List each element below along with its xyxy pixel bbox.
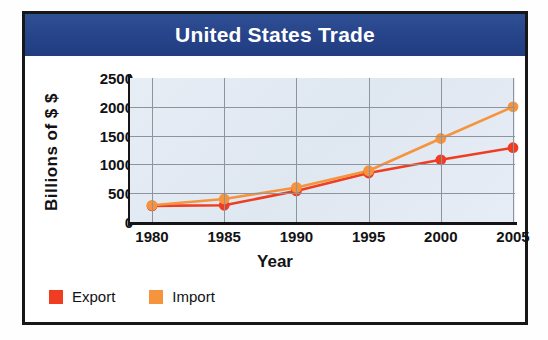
gridline-vertical <box>296 78 297 222</box>
gridline-vertical <box>369 78 370 222</box>
x-axis-tick: 2000 <box>424 228 457 245</box>
gridline-horizontal <box>130 193 515 194</box>
legend-label: Import <box>172 288 215 305</box>
x-axis-tick: 1980 <box>135 228 168 245</box>
legend-item-export[interactable]: Export <box>49 288 115 305</box>
y-axis-tick-labels: 25002000150010005000 <box>73 78 133 222</box>
legend-swatch-icon <box>149 290 163 304</box>
x-axis-tick: 1995 <box>352 228 385 245</box>
plot-area <box>130 78 515 222</box>
chart-title-bar: United States Trade <box>25 14 525 56</box>
gridline-vertical <box>441 78 442 222</box>
gridline-vertical <box>152 78 153 222</box>
legend-item-import[interactable]: Import <box>149 288 215 305</box>
gridline-horizontal <box>130 107 515 108</box>
chart-region: Billions of $ $ 25002000150010005000 198… <box>25 56 525 328</box>
x-axis-line <box>128 222 517 225</box>
chart-legend: ExportImport <box>49 288 215 305</box>
x-axis-tick: 2005 <box>496 228 529 245</box>
screenshot-root: United States Trade Billions of $ $ 2500… <box>0 0 548 340</box>
x-axis-tick: 1990 <box>280 228 313 245</box>
x-axis-tick: 1985 <box>208 228 241 245</box>
gridline-vertical <box>224 78 225 222</box>
gridline-vertical <box>513 78 514 222</box>
data-series-layer <box>130 78 515 222</box>
y-axis-title: Billions of $ $ <box>42 77 62 227</box>
series-line-export <box>152 148 513 206</box>
page-title: United States Trade <box>175 23 375 47</box>
legend-swatch-icon <box>49 290 63 304</box>
chart-figure-box: United States Trade Billions of $ $ 2500… <box>22 11 528 325</box>
gridline-horizontal <box>130 164 515 165</box>
gridline-horizontal <box>130 136 515 137</box>
x-axis-title: Year <box>25 252 525 272</box>
legend-label: Export <box>72 288 115 305</box>
